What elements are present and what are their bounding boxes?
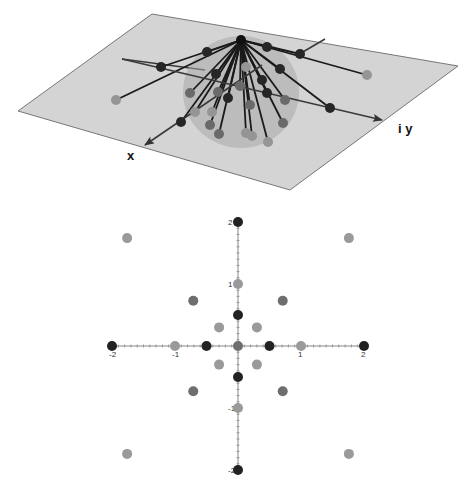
data-point [296,341,306,351]
ball [280,95,290,105]
ball [257,75,267,85]
y-tick-label: 1 [228,280,233,289]
ball [245,100,255,110]
y-tick-label: 2 [228,218,233,227]
data-point [122,233,132,243]
ball [213,87,223,97]
ball [278,118,288,128]
ball [247,131,257,141]
ball [263,137,273,147]
data-point [344,449,354,459]
ball [275,64,285,74]
data-point [252,360,262,370]
apex-point [236,35,246,45]
data-point [233,217,243,227]
data-point [122,449,132,459]
data-point [233,372,243,382]
ball [190,107,200,117]
data-point [188,386,198,396]
data-point [202,341,212,351]
data-point [233,465,243,475]
ball [235,81,245,91]
ball [362,70,372,80]
ball [156,62,166,72]
data-point [233,310,243,320]
ball [185,88,195,98]
data-point [233,279,243,289]
x-tick-label: 1 [298,350,303,359]
data-point [214,322,224,332]
data-point [278,386,288,396]
data-point [233,341,243,351]
data-point [188,296,198,306]
data-point [265,341,275,351]
ball [325,103,335,113]
ball [207,107,217,117]
ball [205,120,215,130]
data-point [278,296,288,306]
ball [295,49,305,59]
x-tick-label: 2 [361,350,366,359]
data-point [252,322,262,332]
y-axis-label: i y [398,121,413,136]
x-axis-label: x [127,148,135,163]
ball [176,117,186,127]
data-point [214,360,224,370]
x-tick-label: -1 [172,350,180,359]
ball [214,129,224,139]
data-point [233,403,243,413]
ball [262,42,272,52]
data-point [344,233,354,243]
ball [262,88,272,98]
ball [202,47,212,57]
ball [241,62,251,72]
data-point [359,341,369,351]
scatter-plot: -2-11221-1-2 [0,200,475,498]
ball [111,95,121,105]
data-point [170,341,180,351]
data-point [107,341,117,351]
ball [223,93,233,103]
ball [211,69,221,79]
3d-diagram: x i y [0,0,475,200]
x-tick-label: -2 [109,350,117,359]
